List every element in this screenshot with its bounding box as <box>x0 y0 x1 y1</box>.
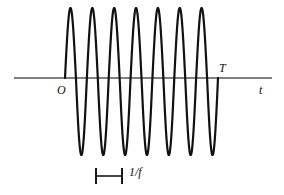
sine-wave-path <box>65 8 218 155</box>
period-bracket-group <box>96 168 122 184</box>
period-annotation-label: 1/f <box>129 166 142 178</box>
duration-label-T: T <box>219 62 226 74</box>
waveform-group <box>65 8 218 155</box>
waveform-plot <box>0 0 284 195</box>
time-axis-label: t <box>259 84 262 96</box>
waveform-figure: O T t 1/f <box>0 0 284 195</box>
origin-label: O <box>57 84 66 96</box>
